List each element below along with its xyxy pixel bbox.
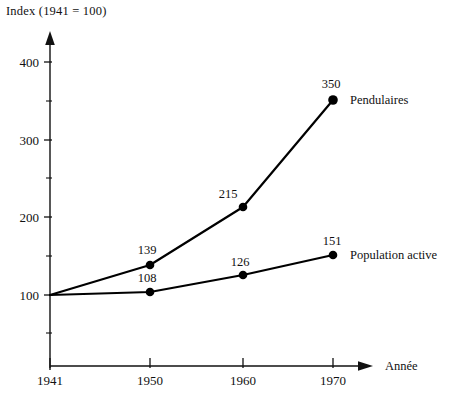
series-pendulaires: 139 215 350 Pendulaires xyxy=(50,77,408,295)
y-axis: 400 300 200 100 xyxy=(20,31,55,370)
series-population-active-line xyxy=(50,255,333,295)
data-label-pendulaires-1970: 350 xyxy=(322,77,341,91)
data-label-population-1960: 126 xyxy=(231,255,250,269)
y-axis-arrow-icon xyxy=(45,31,55,45)
data-point-population-1970 xyxy=(329,251,338,260)
y-tick-label-200: 200 xyxy=(20,210,40,225)
data-point-population-1960 xyxy=(239,271,248,280)
data-point-pendulaires-1950 xyxy=(146,261,155,270)
data-label-population-1950: 108 xyxy=(138,271,157,285)
y-tick-label-300: 300 xyxy=(20,133,40,148)
x-axis-label: Année xyxy=(385,359,418,373)
series-population-active: 108 126 151 Population active xyxy=(50,234,438,296)
series-label-pendulaires: Pendulaires xyxy=(350,93,408,107)
series-pendulaires-line xyxy=(50,100,333,295)
x-tick-label-1941: 1941 xyxy=(37,373,63,388)
x-tick-label-1970: 1970 xyxy=(320,373,346,388)
series-label-population-active: Population active xyxy=(350,248,438,262)
x-axis-arrow-icon xyxy=(358,361,373,371)
y-tick-label-400: 400 xyxy=(20,55,40,70)
x-tick-label-1960: 1960 xyxy=(230,373,256,388)
data-label-pendulaires-1960: 215 xyxy=(219,187,238,201)
x-axis: 1941 1950 1960 1970 Année xyxy=(37,358,418,388)
chart-figure: Index (1941 = 100) 400 300 200 100 xyxy=(0,0,457,402)
y-tick-label-100: 100 xyxy=(20,288,40,303)
chart-plot-area: 400 300 200 100 1941 1950 1960 1970 Anné… xyxy=(0,0,457,402)
data-label-population-1970: 151 xyxy=(323,234,342,248)
data-point-population-1950 xyxy=(146,288,155,297)
x-tick-label-1950: 1950 xyxy=(137,373,163,388)
data-label-pendulaires-1950: 139 xyxy=(138,243,157,257)
data-point-pendulaires-1970 xyxy=(328,95,338,105)
data-point-pendulaires-1960 xyxy=(239,203,248,212)
